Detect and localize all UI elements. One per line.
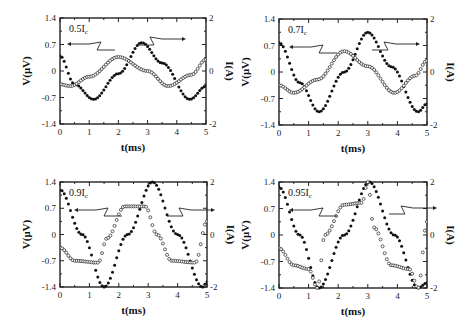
y-left-tick-label: -0.7: [261, 94, 276, 104]
chart-panel-bottom-left: 0123451.40.70-0.7-1.420-2t(ms)V(μV)I(A)0…: [20, 177, 237, 317]
y-left-tick-label: 0.7: [45, 203, 57, 213]
x-axis-label: t(ms): [341, 142, 366, 155]
y-left-axis-label: V(μV): [20, 219, 33, 249]
y-left-tick-label: 1.4: [45, 177, 57, 187]
annotation-arrow: [167, 208, 213, 216]
x-axis-label: t(ms): [121, 304, 146, 317]
y-right-tick-label: 0: [210, 230, 215, 240]
y-left-tick-label: 0.7: [264, 41, 276, 51]
y-left-tick-label: -0.7: [261, 257, 276, 267]
x-tick-label: 1: [306, 128, 311, 138]
chart-panel-top-right: 0123451.40.70-0.7-1.420-2t(ms)V(μV)I(A)0…: [239, 14, 457, 155]
y-right-tick-label: -2: [430, 120, 438, 130]
y-left-tick-label: 0.7: [45, 40, 57, 50]
voltage-series: [59, 55, 208, 87]
condition-label: 0.7Ic: [288, 24, 307, 37]
y-right-tick-label: -2: [210, 282, 218, 292]
x-tick-label: 4: [175, 127, 180, 137]
y-left-tick-label: 0: [271, 230, 276, 240]
condition-label: 0.9Ic: [69, 187, 88, 200]
x-axis-label: t(ms): [341, 305, 366, 318]
x-tick-label: 3: [146, 290, 151, 300]
x-tick-label: 3: [366, 128, 371, 138]
x-tick-label: 5: [425, 128, 430, 138]
figure-canvas: 0123451.40.70-0.7-1.420-2t(ms)V(μV)I(A)0…: [0, 0, 474, 331]
x-tick-label: 0: [277, 291, 282, 301]
y-left-tick-label: -0.7: [42, 256, 57, 266]
x-tick-label: 2: [336, 291, 341, 301]
x-tick-label: 3: [366, 291, 371, 301]
y-right-tick-label: 0: [209, 66, 214, 76]
y-left-tick-label: -1.4: [261, 120, 276, 130]
y-right-axis-label: I(A): [444, 225, 457, 245]
y-right-tick-label: -2: [209, 119, 217, 129]
y-right-axis-label: I(A): [444, 62, 457, 82]
voltage-series: [278, 50, 429, 95]
y-left-tick-label: 1.4: [264, 177, 276, 187]
x-tick-label: 0: [277, 128, 282, 138]
x-tick-label: 0: [58, 290, 63, 300]
current-series: [59, 41, 208, 101]
y-right-axis-label: I(A): [223, 61, 236, 81]
annotation-arrow: [291, 45, 337, 53]
chart-panel-bottom-right: 0123451.40.70-0.7-1.420-2t(ms)V(μV)I(A)0…: [239, 177, 457, 318]
x-tick-label: 5: [204, 127, 209, 137]
y-left-tick-label: -1.4: [42, 119, 57, 129]
y-left-tick-label: -0.7: [42, 93, 57, 103]
x-tick-label: 2: [336, 128, 341, 138]
y-left-tick-label: 0.7: [264, 204, 276, 214]
y-right-tick-label: 2: [209, 13, 214, 23]
y-left-tick-label: 1.4: [264, 14, 276, 24]
y-right-tick-label: 0: [430, 230, 435, 240]
x-tick-label: 0: [58, 127, 63, 137]
x-tick-label: 4: [395, 291, 400, 301]
x-tick-label: 1: [306, 291, 311, 301]
annotation-arrow: [291, 208, 337, 216]
x-axis-label: t(ms): [121, 141, 146, 154]
y-right-tick-label: 0: [430, 67, 435, 77]
y-left-axis-label: V(μV): [239, 57, 252, 87]
y-left-tick-label: -1.4: [261, 283, 276, 293]
x-tick-label: 4: [175, 290, 180, 300]
x-tick-label: 5: [425, 291, 430, 301]
y-left-tick-label: 0: [271, 67, 276, 77]
y-right-tick-label: 2: [210, 177, 215, 187]
x-tick-label: 2: [117, 290, 122, 300]
x-tick-label: 1: [87, 127, 92, 137]
y-left-axis-label: V(μV): [20, 56, 33, 86]
y-right-tick-label: 2: [430, 177, 435, 187]
y-right-tick-label: -2: [430, 283, 438, 293]
condition-label: 0.95Ic: [288, 187, 312, 200]
y-left-tick-label: 0: [52, 230, 57, 240]
x-tick-label: 5: [205, 290, 210, 300]
y-left-tick-label: -1.4: [42, 282, 57, 292]
current-series: [278, 31, 429, 113]
y-left-tick-label: 1.4: [45, 13, 57, 23]
annotation-arrow: [389, 206, 435, 214]
condition-label: 0.5Ic: [69, 23, 88, 36]
chart-panel-top-left: 0123451.40.70-0.7-1.420-2t(ms)V(μV)I(A)0…: [20, 13, 236, 154]
y-right-tick-label: 2: [430, 14, 435, 24]
y-left-axis-label: V(μV): [239, 220, 252, 250]
annotation-arrow: [69, 42, 115, 50]
y-left-tick-label: 0: [52, 66, 57, 76]
annotation-arrow: [76, 208, 122, 216]
x-tick-label: 1: [87, 290, 92, 300]
y-right-axis-label: I(A): [224, 225, 237, 245]
x-tick-label: 4: [395, 128, 400, 138]
x-tick-label: 3: [145, 127, 150, 137]
x-tick-label: 2: [116, 127, 121, 137]
